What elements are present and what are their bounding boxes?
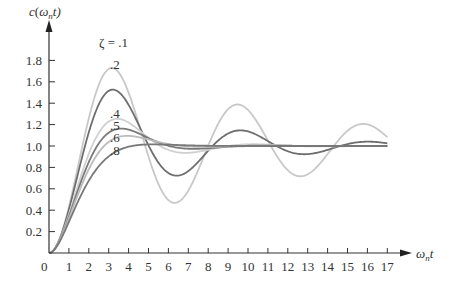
- x-tick-label: 14: [321, 259, 335, 274]
- x-tick-label: 5: [145, 259, 152, 274]
- x-tick-label: 7: [185, 259, 192, 274]
- x-tick-label: 11: [262, 259, 275, 274]
- curve-zeta-0-8: [49, 144, 387, 253]
- curve-zeta-0-2: [49, 90, 387, 253]
- curve-zeta-0-1: [49, 68, 387, 253]
- x-axis-arrow-icon: [400, 250, 412, 257]
- curve-label: .2: [110, 57, 120, 72]
- y-axis-arrow-icon: [46, 20, 53, 32]
- curve-zeta-0-6: [49, 136, 387, 253]
- x-tick-label: 8: [205, 259, 212, 274]
- curve-label: ζ = .1: [99, 35, 128, 50]
- y-tick-label: 1.6: [26, 74, 43, 89]
- y-tick-label: 0.4: [26, 203, 43, 218]
- x-tick-label: 3: [105, 259, 112, 274]
- curve-label: .8: [110, 143, 120, 158]
- x-tick-label: 4: [125, 259, 132, 274]
- y-axis-title: c(ωnt): [29, 4, 61, 21]
- x-axis-title: ωnt: [416, 246, 434, 263]
- y-tick-label: 0.2: [26, 224, 42, 239]
- x-tick-label: 13: [301, 259, 314, 274]
- x-tick-label: 15: [341, 259, 354, 274]
- y-tick-label: 1.2: [26, 117, 42, 132]
- x-tick-label: 16: [361, 259, 375, 274]
- y-tick-label: 1.4: [26, 96, 43, 111]
- x-tick-label: 10: [242, 259, 255, 274]
- y-tick-label: 1.8: [26, 53, 42, 68]
- curves-group: [49, 68, 387, 253]
- x-tick-label: 6: [165, 259, 172, 274]
- curve-zeta-0-4: [49, 119, 387, 253]
- y-tick-label: 0.6: [26, 181, 43, 196]
- x-ticks: 1234567891011121314151617: [66, 248, 395, 274]
- x-tick-label: 9: [225, 259, 232, 274]
- y-tick-label: 0.8: [26, 160, 42, 175]
- y-tick-label: 1.0: [26, 139, 42, 154]
- origin-label: 0: [41, 259, 48, 274]
- y-ticks: 0.20.40.60.81.01.21.41.61.8: [26, 53, 55, 239]
- x-tick-label: 2: [86, 259, 93, 274]
- x-tick-label: 12: [281, 259, 294, 274]
- x-tick-label: 17: [381, 259, 395, 274]
- step-response-chart: 1234567891011121314151617 0.20.40.60.81.…: [0, 0, 454, 283]
- x-tick-label: 1: [66, 259, 73, 274]
